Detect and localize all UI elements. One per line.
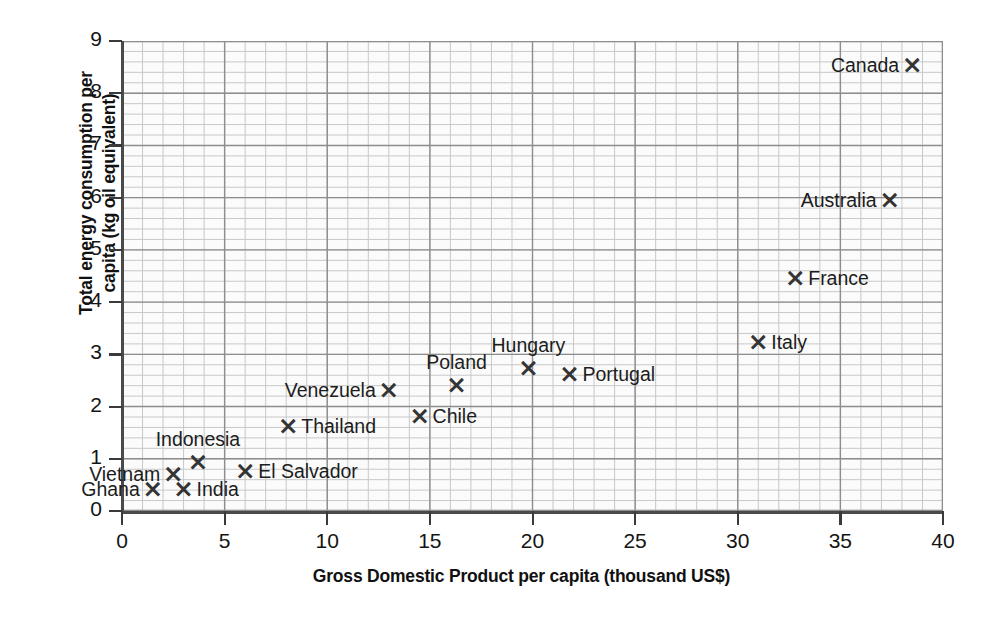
y-axis-line: [121, 41, 124, 512]
x-tick-mark: [839, 511, 841, 525]
cross-marker-icon: ×: [784, 265, 806, 291]
x-tick-label: 40: [923, 529, 963, 553]
cross-marker-icon: ×: [173, 476, 195, 502]
scatter-chart: Total energy consumption per capita (kg …: [0, 0, 983, 625]
cross-marker-icon: ×: [187, 449, 209, 475]
data-point-label: Venezuela: [285, 380, 376, 400]
y-tick-label: 0: [68, 497, 102, 521]
cross-marker-icon: ×: [409, 403, 431, 429]
data-point-label: Vietnam: [89, 464, 160, 484]
x-tick-mark: [429, 511, 431, 525]
x-tick-mark: [737, 511, 739, 525]
cross-marker-icon: ×: [277, 413, 299, 439]
y-tick-mark: [109, 406, 122, 408]
y-tick-label: 5: [68, 236, 102, 260]
data-point-label: Australia: [801, 190, 877, 210]
x-tick-label: 20: [513, 529, 553, 553]
y-tick-mark: [109, 197, 122, 199]
data-point-label: Hungary: [492, 335, 566, 355]
data-point-label: India: [197, 479, 239, 499]
cross-marker-icon: ×: [446, 372, 468, 398]
data-point-label: Chile: [433, 406, 477, 426]
data-point-label: Portugal: [582, 364, 655, 384]
x-tick-label: 25: [615, 529, 655, 553]
y-tick-label: 4: [68, 288, 102, 312]
cross-marker-icon: ×: [558, 361, 580, 387]
y-tick-mark: [109, 301, 122, 303]
cross-marker-icon: ×: [747, 329, 769, 355]
data-point-label: Canada: [831, 55, 899, 75]
x-tick-label: 30: [718, 529, 758, 553]
y-tick-mark: [109, 458, 122, 460]
data-point-label: El Salvador: [258, 461, 358, 481]
x-tick-label: 15: [410, 529, 450, 553]
x-tick-mark: [121, 511, 123, 525]
y-tick-mark: [109, 92, 122, 94]
y-tick-mark: [109, 144, 122, 146]
x-tick-mark: [942, 511, 944, 525]
y-tick-label: 3: [68, 340, 102, 364]
x-tick-mark: [634, 511, 636, 525]
x-axis-title: Gross Domestic Product per capita (thous…: [0, 566, 983, 587]
y-tick-label: 9: [68, 27, 102, 51]
data-point-label: Poland: [426, 352, 487, 372]
x-tick-label: 0: [102, 529, 142, 553]
y-tick-label: 7: [68, 131, 102, 155]
data-point-label: Italy: [771, 332, 807, 352]
y-tick-mark: [109, 249, 122, 251]
cross-marker-icon: ×: [879, 187, 901, 213]
x-tick-mark: [326, 511, 328, 525]
x-tick-mark: [224, 511, 226, 525]
cross-marker-icon: ×: [234, 458, 256, 484]
data-point-label: Indonesia: [156, 429, 241, 449]
data-point-label: Thailand: [301, 416, 376, 436]
x-tick-label: 35: [820, 529, 860, 553]
y-tick-label: 6: [68, 184, 102, 208]
x-tick-label: 5: [205, 529, 245, 553]
y-tick-label: 8: [68, 79, 102, 103]
cross-marker-icon: ×: [517, 355, 539, 381]
y-tick-mark: [109, 353, 122, 355]
cross-marker-icon: ×: [901, 52, 923, 78]
x-tick-mark: [532, 511, 534, 525]
y-tick-mark: [109, 40, 122, 42]
x-tick-label: 10: [307, 529, 347, 553]
data-point-label: France: [808, 268, 869, 288]
y-tick-label: 2: [68, 393, 102, 417]
cross-marker-icon: ×: [378, 377, 400, 403]
